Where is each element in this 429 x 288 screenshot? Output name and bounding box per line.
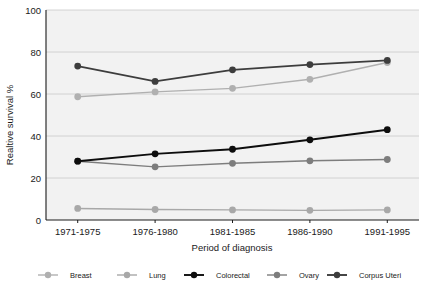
y-tick-label-80: 80	[30, 47, 41, 58]
x-tick-label-1991-1995: 1991-1995	[365, 226, 410, 237]
y-tick-label-0: 0	[36, 215, 41, 226]
legend-item-corpus-uteri[interactable]: Corpus Uteri	[327, 271, 401, 280]
y-tick-label-40: 40	[30, 131, 41, 142]
data-point	[152, 89, 159, 96]
data-point	[306, 207, 313, 214]
data-point	[74, 63, 81, 70]
data-point	[384, 57, 391, 64]
legend-label-ovary: Ovary	[299, 271, 319, 280]
y-axis-title: Realtive survival %	[4, 84, 15, 165]
legend-marker-corpus-uteri	[334, 272, 340, 278]
data-point	[229, 146, 236, 153]
data-point	[229, 207, 236, 214]
data-point	[306, 76, 313, 83]
legend-label-corpus-uteri: Corpus Uteri	[359, 271, 401, 280]
legend-label-lung: Lung	[149, 271, 166, 280]
data-point	[74, 205, 81, 212]
legend-item-breast[interactable]: Breast	[38, 271, 93, 280]
y-tick-label-60: 60	[30, 89, 41, 100]
data-point	[152, 78, 159, 85]
x-tick-labels: 1971-19751976-19801981-19851986-19901991…	[55, 220, 410, 237]
data-point	[74, 158, 81, 165]
data-point	[384, 126, 391, 133]
legend-label-breast: Breast	[70, 271, 93, 280]
legend-item-colorectal[interactable]: Colorectal	[184, 271, 250, 280]
x-tick-label-1971-1975: 1971-1975	[55, 226, 100, 237]
chart-legend: BreastLungColorectalOvaryCorpus Uteri	[38, 271, 401, 280]
data-point	[306, 136, 313, 143]
x-axis-title: Period of diagnosis	[192, 242, 273, 253]
x-tick-label-1981-1985: 1981-1985	[210, 226, 255, 237]
chart-svg: 100 80 60 40 20 0 Realtive survival % 19…	[0, 0, 429, 288]
data-point	[229, 66, 236, 73]
chart-container: 100 80 60 40 20 0 Realtive survival % 19…	[0, 0, 429, 288]
data-point	[152, 206, 159, 213]
legend-marker-ovary	[274, 272, 280, 278]
x-tick-label-1976-1980: 1976-1980	[132, 226, 177, 237]
legend-label-colorectal: Colorectal	[216, 271, 250, 280]
legend-marker-colorectal	[191, 272, 197, 278]
y-tick-label-20: 20	[30, 173, 41, 184]
data-point	[152, 163, 159, 170]
x-tick-label-1986-1990: 1986-1990	[287, 226, 332, 237]
data-point	[306, 157, 313, 164]
legend-marker-breast	[45, 272, 51, 278]
data-point	[384, 207, 391, 214]
data-point	[306, 61, 313, 68]
legend-item-lung[interactable]: Lung	[117, 271, 166, 280]
y-tick-label-100: 100	[25, 5, 41, 16]
legend-item-ovary[interactable]: Ovary	[267, 271, 319, 280]
data-point	[384, 156, 391, 163]
legend-marker-lung	[124, 272, 130, 278]
data-point	[229, 160, 236, 167]
data-point	[152, 150, 159, 157]
data-point	[74, 93, 81, 100]
plot-background	[46, 10, 419, 220]
data-point	[229, 85, 236, 92]
